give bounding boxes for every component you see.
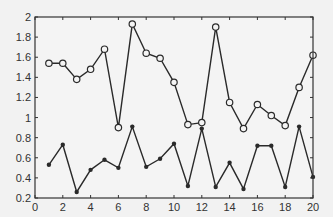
data-point-circle bbox=[296, 84, 302, 90]
y-tick-label: 1.8 bbox=[16, 31, 31, 43]
data-point-circle bbox=[74, 76, 80, 82]
y-tick-label: 1.2 bbox=[16, 91, 31, 103]
data-point-circle bbox=[157, 55, 163, 61]
data-point-dot bbox=[102, 158, 106, 162]
plot-area bbox=[35, 17, 313, 198]
line-chart: 0.20.40.60.811.21.41.61.82 0246810121416… bbox=[0, 0, 333, 217]
y-tick-label: 0.2 bbox=[16, 192, 31, 204]
x-tick-label: 4 bbox=[88, 201, 94, 213]
data-point-circle bbox=[199, 119, 205, 125]
data-point-dot bbox=[88, 168, 92, 172]
x-tick-label: 6 bbox=[115, 201, 121, 213]
data-point-dot bbox=[186, 184, 190, 188]
y-tick-label: 1 bbox=[25, 112, 31, 124]
data-point-dot bbox=[144, 165, 148, 169]
data-point-circle bbox=[213, 24, 219, 30]
data-point-dot bbox=[172, 142, 176, 146]
x-tick-label: 8 bbox=[143, 201, 149, 213]
x-tick-label: 18 bbox=[279, 201, 291, 213]
data-point-dot bbox=[283, 185, 287, 189]
data-point-dot bbox=[269, 144, 273, 148]
data-point-circle bbox=[254, 101, 260, 107]
data-point-dot bbox=[241, 187, 245, 191]
x-tick-label: 16 bbox=[251, 201, 263, 213]
y-tick-label: 1.6 bbox=[16, 51, 31, 63]
data-point-dot bbox=[47, 163, 51, 167]
data-point-dot bbox=[255, 144, 259, 148]
data-point-dot bbox=[158, 157, 162, 161]
data-point-circle bbox=[240, 125, 246, 131]
y-tick-label: 0.6 bbox=[16, 152, 31, 164]
data-point-dot bbox=[61, 143, 65, 147]
y-axis-labels: 0.20.40.60.811.21.41.61.82 bbox=[16, 11, 31, 204]
data-point-dot bbox=[75, 190, 79, 194]
data-point-circle bbox=[87, 66, 93, 72]
data-point-circle bbox=[115, 124, 121, 130]
data-point-circle bbox=[171, 79, 177, 85]
x-tick-label: 12 bbox=[196, 201, 208, 213]
data-point-circle bbox=[101, 46, 107, 52]
data-point-circle bbox=[268, 112, 274, 118]
x-axis-labels: 02468101214161820 bbox=[32, 201, 319, 213]
data-point-dot bbox=[200, 126, 204, 130]
data-point-dot bbox=[227, 161, 231, 165]
data-point-circle bbox=[143, 50, 149, 56]
x-tick-label: 10 bbox=[168, 201, 180, 213]
x-tick-label: 20 bbox=[307, 201, 319, 213]
x-tick-label: 0 bbox=[32, 201, 38, 213]
y-tick-label: 0.8 bbox=[16, 132, 31, 144]
data-point-circle bbox=[46, 60, 52, 66]
data-point-circle bbox=[185, 121, 191, 127]
data-point-circle bbox=[129, 21, 135, 27]
data-point-circle bbox=[226, 99, 232, 105]
data-point-dot bbox=[297, 124, 301, 128]
y-tick-label: 0.4 bbox=[16, 172, 31, 184]
data-point-dot bbox=[130, 124, 134, 128]
y-tick-label: 1.4 bbox=[16, 71, 31, 83]
data-point-circle bbox=[282, 122, 288, 128]
data-point-dot bbox=[116, 166, 120, 170]
x-tick-label: 14 bbox=[223, 201, 235, 213]
data-point-circle bbox=[60, 60, 66, 66]
y-tick-label: 2 bbox=[25, 11, 31, 23]
x-tick-label: 2 bbox=[60, 201, 66, 213]
data-point-dot bbox=[214, 185, 218, 189]
